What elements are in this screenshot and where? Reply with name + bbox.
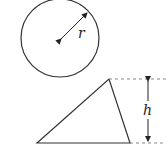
circle: [21, 0, 99, 77]
circle-figure: r: [21, 0, 99, 77]
triangle-figure: h: [37, 79, 166, 143]
height-label: h: [143, 102, 152, 118]
triangle: [37, 79, 130, 143]
geometry-diagram: r h: [0, 0, 167, 144]
radius-label: r: [78, 25, 86, 41]
